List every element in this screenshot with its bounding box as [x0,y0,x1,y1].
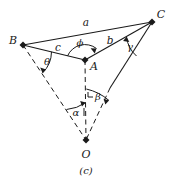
vertex-label-C: C [157,9,165,20]
segment-BO-dashed [23,45,86,140]
tick-beta [88,92,93,97]
geometry-figure: B C A O a b c ϕ θ γ α β (c) [0,0,172,180]
side-label-a: a [83,17,89,28]
vertex-marker-O [83,137,90,144]
vertex-label-O: O [81,149,90,160]
segment-CO-solid [110,22,152,88]
vertex-markers [20,19,156,144]
angle-label-beta: β [95,92,101,102]
vertex-marker-C [149,19,156,26]
vertex-label-B: B [9,35,17,46]
arrowhead-phi [91,48,97,53]
figure-caption: (c) [79,165,92,176]
arrowhead-theta [40,68,46,73]
angle-label-gamma: γ [127,42,133,52]
vertex-marker-A [82,57,89,64]
vertex-label-A: A [90,61,98,72]
angle-label-phi: ϕ [77,38,84,48]
angle-label-alpha: α [73,108,80,118]
side-label-b: b [107,35,114,46]
segment-AO-dashed [85,60,86,140]
side-label-c: c [55,42,61,53]
vertex-marker-B [20,42,27,49]
angle-label-theta: θ [44,57,50,67]
